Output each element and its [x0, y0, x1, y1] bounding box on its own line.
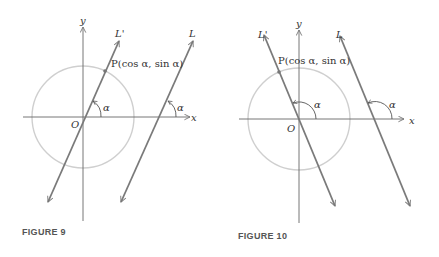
line-l-label: L	[335, 29, 343, 40]
y-axis-label: y	[295, 18, 302, 29]
origin-label: O	[71, 119, 79, 130]
point-p	[103, 69, 107, 73]
line-l-prime-label: L'	[257, 29, 267, 40]
angle-arc-origin	[293, 102, 316, 119]
x-axis-label: x	[191, 112, 197, 123]
figure-caption: FIGURE 9	[22, 227, 66, 237]
angle-label-origin: α	[314, 99, 321, 110]
figure-10: y x O L' L P(cos α, sin α) α α FIGURE 10	[238, 18, 415, 241]
figure-9: y x O L' L P(cos α, sin α) α α FIGURE 9	[22, 15, 197, 237]
origin-label: O	[287, 123, 295, 134]
angle-label-l: α	[177, 102, 184, 113]
angle-arc-l	[168, 101, 176, 117]
point-p-label: P(cos α, sin α)	[111, 58, 183, 69]
angle-label-l: α	[389, 99, 396, 110]
diagram-canvas: y x O L' L P(cos α, sin α) α α FIGURE 9 …	[0, 0, 439, 257]
y-axis-label: y	[79, 15, 86, 26]
angle-arc-origin	[93, 101, 101, 117]
line-l-label: L	[188, 28, 196, 39]
line-l-prime	[48, 41, 119, 202]
angle-label-origin: α	[103, 102, 110, 113]
figure-caption: FIGURE 10	[238, 231, 287, 241]
point-p	[277, 70, 281, 74]
point-p-label: P(cos α, sin α)	[278, 55, 350, 66]
line-l-prime-label: L'	[114, 28, 124, 39]
x-axis-label: x	[409, 115, 415, 126]
